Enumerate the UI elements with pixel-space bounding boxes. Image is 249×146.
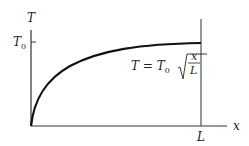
t0-label-main: T [13, 35, 21, 49]
equation-lhs: T = T0 [131, 60, 170, 75]
t0-label: T0 [13, 36, 26, 51]
figure: T T0 x L T = T0 x L [0, 0, 249, 146]
equation-sub: 0 [165, 66, 170, 75]
l-tick-label: L [197, 131, 205, 143]
plot-lines [0, 0, 249, 146]
equation-numerator: x [191, 51, 197, 62]
equation-denominator: L [190, 65, 197, 76]
equation-lhs-text: T = T [131, 59, 165, 73]
t0-label-sub: 0 [21, 42, 26, 51]
x-axis-label: x [233, 120, 240, 132]
sqrt-curve [31, 43, 201, 126]
y-axis-label: T [27, 12, 35, 24]
